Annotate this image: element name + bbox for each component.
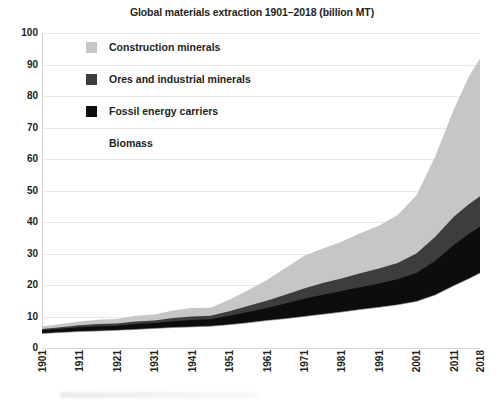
legend-swatch-icon [86,74,97,85]
legend-swatch-icon [86,138,97,149]
chart-legend: Construction mineralsOres and industrial… [86,40,336,168]
legend-item[interactable]: Biomass [86,136,336,168]
x-tick-label: 1901 [38,350,48,372]
y-tick-label: 0 [4,343,38,353]
chart-container: Global materials extraction 1901–2018 (b… [0,0,504,400]
x-tick-label: 1961 [263,350,273,372]
x-tick-label: 1921 [113,350,123,372]
x-tick-label: 1951 [225,350,235,372]
legend-swatch-icon [86,42,97,53]
legend-item-label: Construction minerals [109,40,220,54]
x-tick-label: 1991 [375,350,385,372]
y-tick-label: 30 [4,249,38,259]
y-tick-label: 20 [4,280,38,290]
gridline [42,348,480,349]
x-axis-tick-labels: 1901191119211931194119511961197119811991… [42,350,480,398]
x-tick-label: 1941 [188,350,198,372]
y-tick-label: 50 [4,186,38,196]
y-tick-label: 90 [4,60,38,70]
x-tick-label: 1971 [300,350,310,372]
legend-item[interactable]: Fossil energy carriers [86,104,336,136]
chart-title: Global materials extraction 1901–2018 (b… [0,6,504,18]
legend-item-label: Biomass [109,136,153,150]
legend-item-label: Ores and industrial minerals [109,72,251,86]
legend-item[interactable]: Ores and industrial minerals [86,72,336,104]
y-tick-label: 80 [4,91,38,101]
page-artifact [60,392,260,398]
y-tick-label: 100 [4,28,38,38]
y-tick-label: 40 [4,217,38,227]
y-tick-label: 10 [4,312,38,322]
x-tick-label: 2001 [412,350,422,372]
x-tick-label: 2018 [476,350,486,372]
x-tick-label: 1931 [150,350,160,372]
legend-swatch-icon [86,106,97,117]
y-tick-label: 70 [4,123,38,133]
y-axis-tick-labels: 0102030405060708090100 [0,33,38,348]
x-tick-label: 1911 [75,350,85,372]
x-tick-label: 1981 [337,350,347,372]
y-tick-label: 60 [4,154,38,164]
legend-item-label: Fossil energy carriers [109,104,218,118]
x-tick-label: 2011 [450,350,460,372]
legend-item[interactable]: Construction minerals [86,40,336,72]
